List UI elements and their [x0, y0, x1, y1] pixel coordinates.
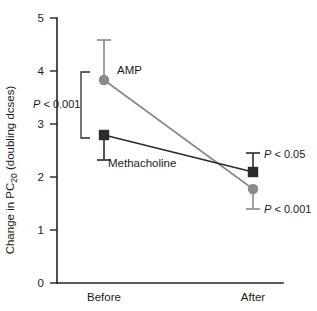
- errorbar-amp-before: [97, 40, 111, 80]
- y-axis-title: Change in PC20 (doubling dcses): [4, 86, 19, 255]
- series-line-amp: [104, 80, 253, 189]
- annotation-p-before-group: P < 0.001: [33, 98, 80, 110]
- y-tick-label-1: 1: [38, 224, 44, 236]
- marker-methacholine-after: [248, 167, 258, 177]
- annotation-p-after-methacholine: P < 0.05: [264, 148, 305, 160]
- y-axis-title-main: Change in PC: [4, 183, 16, 255]
- marker-amp-after: [248, 184, 258, 194]
- y-axis-title-subscript: 20: [9, 173, 19, 183]
- annotation-p-after-amp: P < 0.001: [264, 203, 311, 215]
- marker-amp-before: [99, 75, 109, 85]
- marker-methacholine-before: [99, 130, 109, 140]
- series-label-methacholine: Methacholine: [108, 157, 176, 169]
- y-axis-title-tail: (doubling dcses): [4, 86, 16, 174]
- significance-bracket-before: [81, 72, 90, 138]
- p-relation-top: < 0.05: [274, 148, 305, 160]
- series-label-amp: AMP: [117, 64, 142, 76]
- y-tick-label-0: 0: [38, 277, 44, 289]
- svg-text:Change in PC20 (doubling dcses: Change in PC20 (doubling dcses): [4, 86, 19, 255]
- y-tick-label-3: 3: [38, 118, 44, 130]
- x-tick-label-before: Before: [87, 291, 121, 303]
- y-tick-label-5: 5: [38, 12, 44, 24]
- p-relation-left: < 0.001: [43, 98, 80, 110]
- y-tick-label-2: 2: [38, 171, 44, 183]
- chart-figure: 0 1 2 3 4 5 Change in PC20 (doubling dcs…: [0, 0, 317, 311]
- y-tick-label-4: 4: [38, 65, 45, 77]
- x-tick-label-after: After: [241, 291, 265, 303]
- chart-canvas: 0 1 2 3 4 5 Change in PC20 (doubling dcs…: [0, 0, 317, 311]
- p-relation-bottom: < 0.001: [274, 203, 311, 215]
